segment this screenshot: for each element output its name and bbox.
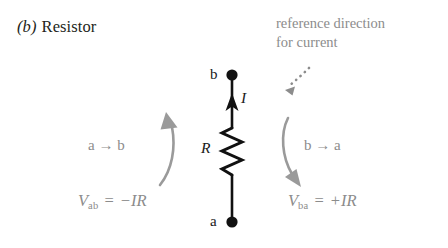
right-direction-arrow-icon — [283, 118, 301, 187]
equation-v-ba: Vba=+IR — [288, 191, 357, 211]
equation-ba-equals: = — [308, 191, 324, 210]
equation-v-ab: Vab=−IR — [78, 191, 147, 211]
path-label-a-to-b: a → b — [88, 137, 125, 154]
path-label-b-to-a: b → a — [304, 137, 341, 154]
resistance-symbol-label: R — [201, 139, 210, 157]
equation-ab-subscript: ab — [88, 200, 98, 211]
node-label-b: b — [210, 66, 218, 83]
equation-ab-equals: = — [98, 191, 114, 210]
node-label-a: a — [210, 213, 217, 230]
dotted-curved-arrow-icon — [285, 68, 309, 96]
equation-ba-variable: V — [288, 191, 298, 210]
circuit-diagram — [0, 0, 448, 248]
equation-ab-expression: IR — [131, 191, 147, 210]
terminal-dot-icon-b — [226, 69, 237, 80]
equation-ba-subscript: ba — [298, 200, 308, 211]
left-direction-arrow-icon — [160, 112, 178, 185]
equation-ab-variable: V — [78, 191, 88, 210]
equation-ba-expression: IR — [341, 191, 357, 210]
equation-ab-sign: − — [115, 191, 131, 210]
resistor-reference-direction-figure: (b)Resistor reference direction for curr… — [0, 0, 448, 248]
terminal-dot-icon-a — [226, 216, 237, 227]
current-symbol-label: I — [241, 89, 246, 107]
equation-ba-sign: + — [325, 191, 341, 210]
